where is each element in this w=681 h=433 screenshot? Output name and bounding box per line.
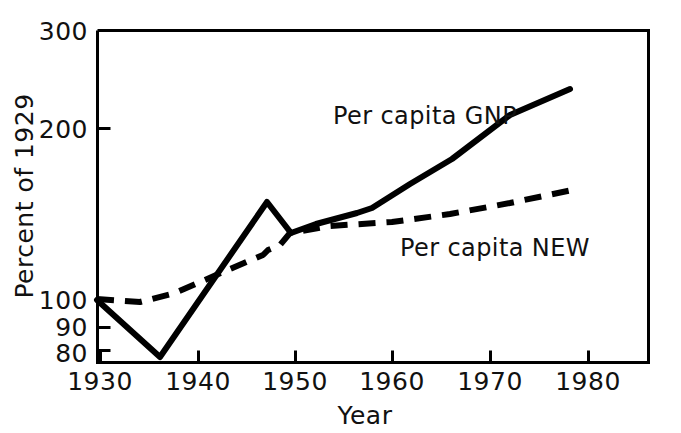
x-tick-label-1930: 1930 [67,367,133,396]
y-tick-label-300: 300 [39,17,88,46]
x-tick-label-group: 1930 1940 1950 1960 1970 1980 [67,367,621,396]
y-axis-ticks [98,129,111,351]
y-tick-label-90: 90 [55,313,88,342]
line-chart-canvas: 300 200 100 90 80 1930 1940 1950 1960 19… [0,0,681,433]
x-tick-label-1940: 1940 [165,367,231,396]
x-tick-label-1960: 1960 [359,367,425,396]
y-tick-label-group: 300 200 100 90 80 [39,17,88,368]
y-tick-label-80: 80 [55,339,88,368]
x-axis-title: Year [337,401,393,430]
chart-figure: 300 200 100 90 80 1930 1940 1950 1960 19… [0,0,681,433]
x-tick-label-1980: 1980 [555,367,621,396]
y-axis-title: Percent of 1929 [10,93,39,298]
x-tick-label-1970: 1970 [457,367,523,396]
x-axis-ticks [101,351,589,363]
series-label-per-capita-new: Per capita NEW [400,234,590,262]
y-tick-label-100: 100 [39,286,88,315]
plot-frame [98,31,649,363]
y-tick-label-200: 200 [39,115,88,144]
series-label-per-capita-gnp: Per capita GNP [333,102,517,130]
x-tick-label-1950: 1950 [262,367,328,396]
